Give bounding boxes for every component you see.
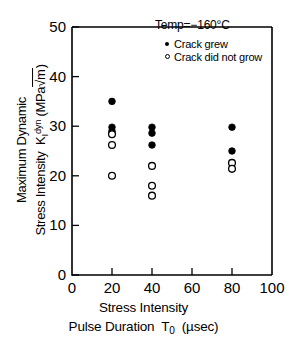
data-point-open xyxy=(229,165,236,172)
legend-label: Crack grew xyxy=(174,38,228,50)
y-axis-ticks xyxy=(72,27,79,275)
y-axis-units-radical: √m xyxy=(32,68,48,86)
temperature-annotation: Temp=−160°C xyxy=(155,18,230,32)
x-tick-label: 40 xyxy=(144,279,161,296)
y-axis-units-close: ) xyxy=(33,64,48,68)
legend-item-crack-grew: Crack grew xyxy=(160,37,262,50)
data-point-filled xyxy=(109,98,116,105)
y-axis-symbol-k-superscript: dyn xyxy=(33,120,43,134)
x-tick-label: 100 xyxy=(259,279,284,296)
x-axis-title-line2: Pulse Duration T0 (µsec) xyxy=(0,317,287,340)
x-axis-units: (µsec) xyxy=(182,319,219,334)
y-tick-label: 0 xyxy=(58,266,66,283)
data-point-filled xyxy=(229,148,236,155)
legend: Crack grew Crack did not grow xyxy=(160,37,262,63)
x-axis-title-line1: Stress Intensity xyxy=(0,298,287,317)
x-axis-tick-labels: 020406080100 xyxy=(68,279,285,296)
x-tick-label: 20 xyxy=(104,279,121,296)
data-point-open xyxy=(109,142,116,149)
data-point-open xyxy=(149,162,156,169)
x-tick-label: 0 xyxy=(68,279,76,296)
data-point-open xyxy=(109,131,116,138)
x-axis-title-line2-prefix: Pulse Duration xyxy=(69,319,155,334)
x-axis-title: Stress Intensity Pulse Duration T0 (µsec… xyxy=(0,298,287,340)
data-point-open xyxy=(109,172,116,179)
open-circle-icon xyxy=(160,54,174,59)
y-axis-title-line1: Maximum Dynamic xyxy=(13,25,30,275)
axis-lines xyxy=(72,27,272,275)
data-point-open xyxy=(149,192,156,199)
legend-label: Crack did not grow xyxy=(174,51,262,63)
y-axis-units-open: (MPa xyxy=(33,87,48,117)
x-axis-symbol-t-subscript: 0 xyxy=(169,325,174,336)
filled-circle-icon xyxy=(160,42,174,46)
data-point-filled xyxy=(149,142,156,149)
figure-scatter-plot: 01020304050 020406080100 Temp=−160°C Cra… xyxy=(0,0,287,347)
axis-frame xyxy=(72,27,272,275)
x-axis-ticks xyxy=(112,268,232,275)
y-axis-title-line2-prefix: Stress Intensity xyxy=(33,152,48,236)
data-point-filled xyxy=(229,124,236,131)
data-point-open xyxy=(149,182,156,189)
x-tick-label: 60 xyxy=(184,279,201,296)
data-point-filled xyxy=(149,130,156,137)
y-axis-symbol-k-subscript: I xyxy=(39,134,50,136)
y-axis-title-line2: Stress Intensity KIdyn (MPa√m) xyxy=(30,25,53,275)
y-axis-title: Maximum Dynamic Stress Intensity KIdyn (… xyxy=(13,25,53,275)
x-tick-label: 80 xyxy=(224,279,241,296)
y-axis-symbol-k: K xyxy=(33,137,48,145)
legend-item-crack-did-not-grow: Crack did not grow xyxy=(160,50,262,63)
data-point-group xyxy=(109,98,236,199)
